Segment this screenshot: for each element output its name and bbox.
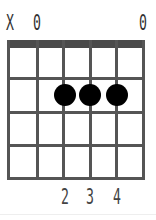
open-string-marker: 0 [31,12,43,34]
muted-string-marker: X [4,12,16,34]
string-line-5 [115,40,118,179]
string-line-6 [142,40,145,179]
open-string-marker: 0 [137,12,149,34]
finger-dot [79,84,101,106]
finger-number: 2 [59,186,71,208]
string-line-1 [7,40,10,179]
nut [7,40,145,48]
finger-dot [54,84,76,106]
finger-number: 4 [111,186,123,208]
string-line-3 [62,40,65,179]
fret-line-3 [7,144,145,147]
fret-line-1 [7,77,145,80]
finger-dot [106,84,128,106]
string-line-2 [36,40,39,179]
fret-line-2 [7,111,145,114]
divider [0,214,156,215]
string-line-4 [89,40,92,179]
finger-number: 3 [84,186,96,208]
fret-line-4 [7,177,145,180]
